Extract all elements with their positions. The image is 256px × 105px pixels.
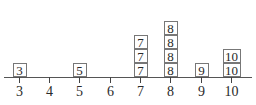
tick-label-4: 4	[38, 84, 62, 100]
tick-label-3: 3	[8, 84, 32, 100]
number-line	[4, 77, 252, 78]
dot-plot: 345678910 35777888891010	[0, 0, 256, 105]
tick-label-9: 9	[190, 84, 214, 100]
data-box-8: 8	[164, 63, 178, 77]
data-box-7: 7	[134, 49, 148, 63]
data-box-7: 7	[134, 35, 148, 49]
tick-label-5: 5	[68, 84, 92, 100]
data-box-5: 5	[73, 63, 87, 77]
data-box-10: 10	[223, 49, 241, 63]
data-box-8: 8	[164, 21, 178, 35]
data-box-3: 3	[13, 63, 27, 77]
tick-4	[49, 77, 50, 83]
tick-label-10: 10	[220, 84, 244, 100]
data-box-7: 7	[134, 63, 148, 77]
tick-label-6: 6	[99, 84, 123, 100]
tick-label-8: 8	[159, 84, 183, 100]
data-box-10: 10	[223, 63, 241, 77]
data-box-8: 8	[164, 35, 178, 49]
tick-label-7: 7	[129, 84, 153, 100]
data-box-9: 9	[195, 63, 209, 77]
data-box-8: 8	[164, 49, 178, 63]
tick-6	[110, 77, 111, 83]
